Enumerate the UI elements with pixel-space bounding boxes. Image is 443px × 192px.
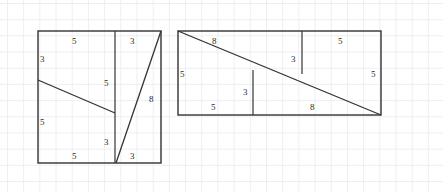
- right-figure-diagonal: [178, 31, 381, 115]
- label-short-divider-3: 3: [243, 88, 248, 97]
- label-inner-3: 3: [104, 138, 109, 147]
- left-figure-group: [38, 31, 161, 163]
- label-left-3: 3: [40, 55, 45, 64]
- geometry-figure-canvas: [0, 0, 443, 192]
- label-right-5: 5: [371, 70, 376, 79]
- right-figure-group: [178, 31, 381, 115]
- label-left-5: 5: [180, 70, 185, 79]
- label-bottom-right-3: 3: [130, 152, 135, 161]
- label-bottom-8: 8: [310, 103, 315, 112]
- label-top-8: 8: [212, 37, 217, 46]
- label-right-8: 8: [149, 95, 154, 104]
- left-figure-steep-diagonal: [116, 31, 161, 163]
- label-tall-divider-3: 3: [291, 55, 296, 64]
- label-inner-5: 5: [104, 79, 109, 88]
- label-top-5: 5: [338, 37, 343, 46]
- left-figure-outline: [38, 31, 161, 163]
- label-top-left-5: 5: [72, 37, 77, 46]
- label-top-right-3: 3: [130, 37, 135, 46]
- label-left-5: 5: [40, 118, 45, 127]
- label-bottom-5: 5: [211, 103, 216, 112]
- label-bottom-5: 5: [72, 152, 77, 161]
